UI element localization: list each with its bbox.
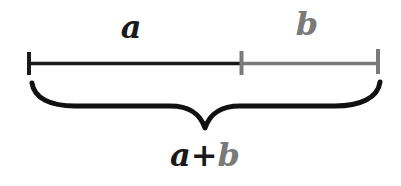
sum-part-b: b — [218, 136, 240, 174]
label-a: a — [121, 8, 142, 46]
sum-part-a: a — [170, 136, 191, 174]
sum-label: a+b — [170, 136, 240, 174]
label-b: b — [296, 5, 318, 43]
curly-brace — [32, 82, 380, 128]
segment-sum-diagram: a b a+b — [0, 0, 401, 186]
sum-operator: + — [191, 136, 218, 174]
